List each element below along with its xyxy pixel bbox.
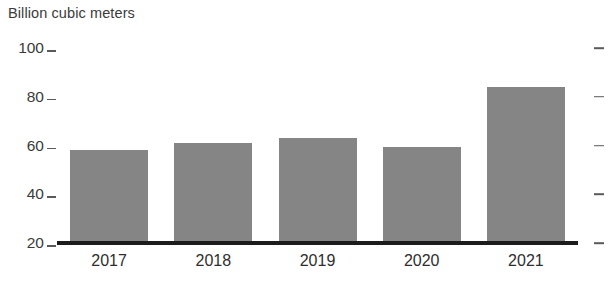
bar-2017 bbox=[70, 150, 148, 243]
x-axis-baseline bbox=[57, 241, 578, 245]
y-axis-tick-label: 80 bbox=[27, 88, 44, 105]
x-axis-tick-label-2018: 2018 bbox=[196, 252, 232, 270]
bar-2021 bbox=[487, 87, 565, 243]
y-axis-tick-20: 20 bbox=[0, 234, 56, 252]
y-axis-tick-label: 60 bbox=[27, 137, 44, 154]
y-axis-right-tick-mark-icon bbox=[594, 193, 604, 195]
y-axis-tick-100: 100 bbox=[0, 39, 56, 57]
y-axis-right-tick-mark-icon bbox=[594, 96, 604, 98]
y-axis-tick-label: 100 bbox=[18, 39, 44, 56]
x-axis-tick-label-2019: 2019 bbox=[300, 252, 336, 270]
y-axis-tick-mark-icon bbox=[47, 245, 56, 247]
x-axis-tick-label-2020: 2020 bbox=[404, 252, 440, 270]
x-axis-tick-label-2021: 2021 bbox=[508, 252, 544, 270]
x-axis-tick-label-2017: 2017 bbox=[91, 252, 127, 270]
y-axis-tick-mark-icon bbox=[47, 148, 56, 150]
plot-area: 2040608010020172018201920202021 bbox=[0, 0, 611, 286]
y-axis-tick-mark-icon bbox=[47, 50, 56, 52]
y-axis-right-tick-mark-icon bbox=[594, 47, 604, 49]
y-axis-tick-mark-icon bbox=[47, 196, 56, 198]
y-axis-right-tick-mark-icon bbox=[594, 242, 604, 244]
y-axis-tick-40: 40 bbox=[0, 185, 56, 203]
bar-chart: Billion cubic meters 2040608010020172018… bbox=[0, 0, 611, 286]
bar-2019 bbox=[279, 138, 357, 243]
y-axis-tick-label: 40 bbox=[27, 185, 44, 202]
y-axis-tick-label: 20 bbox=[27, 234, 44, 251]
y-axis-tick-80: 80 bbox=[0, 88, 56, 106]
bar-2020 bbox=[383, 147, 461, 243]
bar-2018 bbox=[174, 143, 252, 243]
y-axis-right-tick-mark-icon bbox=[594, 145, 604, 147]
y-axis-tick-mark-icon bbox=[47, 99, 56, 101]
y-axis-tick-60: 60 bbox=[0, 137, 56, 155]
